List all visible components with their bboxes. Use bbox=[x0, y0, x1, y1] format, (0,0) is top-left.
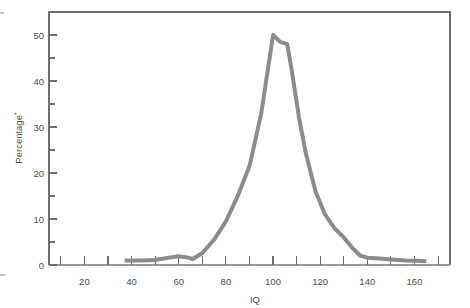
y-tick-label: 40 bbox=[33, 76, 44, 87]
x-tick-label: 120 bbox=[312, 276, 328, 287]
x-tick-label: 100 bbox=[265, 276, 281, 287]
plot-frame bbox=[49, 12, 450, 265]
y-tick-label: 0 bbox=[39, 260, 44, 271]
y-axis-ticks bbox=[49, 35, 57, 265]
y-axis-title-group: Percentage* bbox=[13, 112, 24, 164]
x-tick-label: 40 bbox=[126, 276, 137, 287]
x-axis-title: IQ bbox=[250, 294, 260, 305]
x-tick-label: 80 bbox=[221, 276, 232, 287]
y-axis-title-superscript: * bbox=[13, 112, 20, 115]
data-series-line bbox=[124, 35, 426, 261]
x-tick-label: 140 bbox=[359, 276, 375, 287]
y-axis-tick-labels: 0 10 20 30 40 50 bbox=[33, 30, 44, 271]
y-axis-title: Percentage* bbox=[13, 112, 24, 164]
page-crop-marks bbox=[0, 13, 5, 275]
y-axis-title-text: Percentage bbox=[13, 115, 24, 164]
y-tick-label: 50 bbox=[33, 30, 44, 41]
x-tick-label: 160 bbox=[407, 276, 423, 287]
iq-distribution-chart: 0 10 20 30 40 50 bbox=[0, 0, 470, 308]
y-tick-label: 10 bbox=[33, 214, 44, 225]
y-tick-label: 30 bbox=[33, 122, 44, 133]
y-tick-label: 20 bbox=[33, 168, 44, 179]
x-tick-label: 20 bbox=[79, 276, 90, 287]
x-tick-label: 60 bbox=[173, 276, 184, 287]
x-axis-tick-labels: 20 40 60 80 100 120 140 160 bbox=[79, 276, 422, 287]
chart-container: 0 10 20 30 40 50 bbox=[0, 0, 470, 308]
